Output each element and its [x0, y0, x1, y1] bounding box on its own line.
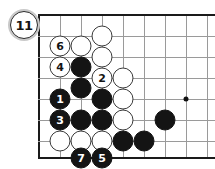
stone-white[interactable] — [113, 68, 134, 89]
numbered-stone-white-4[interactable]: 4 — [50, 57, 71, 78]
star-point — [184, 97, 189, 102]
numbered-stone-white-6[interactable]: 6 — [50, 36, 71, 57]
numbered-stone-white-2[interactable]: 2 — [92, 68, 113, 89]
stone-black[interactable] — [71, 110, 92, 131]
board-top-edge — [38, 14, 215, 16]
stone-white[interactable] — [92, 47, 113, 68]
stone-move-number: 6 — [56, 40, 63, 51]
stone-move-number: 2 — [98, 72, 105, 83]
stone-white[interactable] — [71, 36, 92, 57]
stone-move-number: 7 — [77, 152, 84, 163]
board-bottom-edge — [38, 157, 215, 159]
stone-black[interactable] — [71, 57, 92, 78]
stone-black[interactable] — [71, 78, 92, 99]
numbered-stone-black-7[interactable]: 7 — [71, 148, 92, 169]
go-diagram-screen: 6421375 11 — [0, 0, 215, 169]
numbered-stone-black-1[interactable]: 1 — [50, 89, 71, 110]
stone-black[interactable] — [92, 110, 113, 131]
numbered-stone-black-3[interactable]: 3 — [50, 110, 71, 131]
numbered-stone-black-5[interactable]: 5 — [92, 148, 113, 169]
stone-white[interactable] — [50, 131, 71, 152]
move-number-badge: 11 — [10, 11, 38, 39]
stone-move-number: 5 — [98, 152, 105, 163]
stone-black[interactable] — [113, 131, 134, 152]
stone-black[interactable] — [134, 131, 155, 152]
stone-move-number: 4 — [56, 61, 63, 72]
stone-black[interactable] — [155, 110, 176, 131]
stone-white[interactable] — [113, 110, 134, 131]
stone-black[interactable] — [92, 89, 113, 110]
stone-white[interactable] — [113, 89, 134, 110]
stone-move-number: 3 — [56, 114, 63, 125]
stone-move-number: 1 — [56, 93, 63, 104]
stone-white[interactable] — [92, 26, 113, 47]
